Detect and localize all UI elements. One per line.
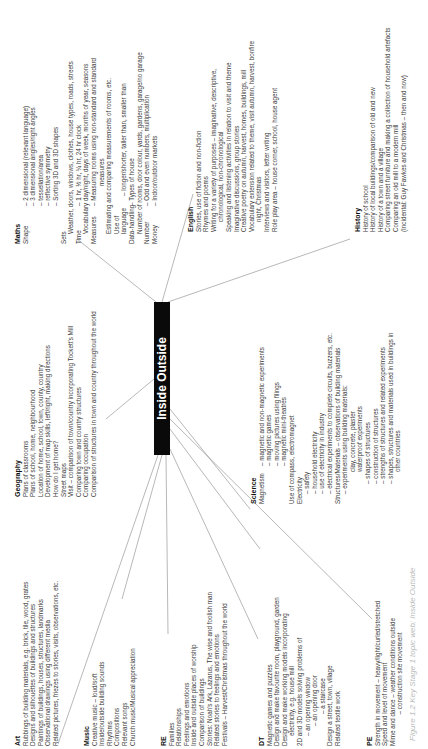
re-item: Families <box>168 592 176 746</box>
maths-block: Maths Shape – 2 dimensional (relevant la… <box>14 52 158 244</box>
geography-item: Location of home, school, town, county, … <box>37 311 45 497</box>
history-item: Comparing an old mill to a modern mill <box>392 28 400 232</box>
maths-language-label: Use of language <box>113 196 128 244</box>
maths-data-item: – Types of house <box>128 158 136 206</box>
geography-block: Geography Plans of classrooms Plans of s… <box>14 311 98 497</box>
history-item: History of local buildings/comparison of… <box>369 28 377 232</box>
dt-item: Magnetic games and puzzles <box>266 597 274 746</box>
english-item: Stories, use of fiction and non-fiction <box>195 41 203 232</box>
geography-item: Street maps <box>60 311 68 497</box>
science-structures-item: – construction of structures <box>372 332 380 504</box>
art-item: Rubbings of building materials, e.g. bri… <box>22 581 30 746</box>
re-block: RE Families Relationships Feelings and e… <box>160 592 228 746</box>
maths-number-text: – Odd and even numbers, multiplication <box>143 95 151 206</box>
english-item: Rhymes and poems <box>202 41 210 232</box>
music-block: Music Creative music – loud/soft Inside/… <box>83 648 136 746</box>
dt-item: Design and make favourite room, playgrou… <box>273 597 281 746</box>
history-item: Comparing street furniture and making a … <box>384 28 392 232</box>
science-magnetism-item: – moving pictures using filings <box>273 347 281 466</box>
english-block: English Stories, use of fiction and non-… <box>187 41 278 232</box>
art-item: Designs and silhouettes of buildings and… <box>29 581 37 746</box>
maths-language-text: – longer/shorter, taller than, smaller t… <box>120 83 128 196</box>
science-electricity-item: – electrical experiments to complete cir… <box>326 332 334 504</box>
science-electricity-item: – use of electricity in industry <box>318 332 326 504</box>
art-block: Art Rubbings of building materials, e.g.… <box>14 581 60 746</box>
re-item: Stories: Noah's Ark, Lazarus, The wise a… <box>206 592 214 746</box>
maths-measures-item: – Measuring rooms using non-standard and… <box>90 58 98 206</box>
science-electricity-item: – safety <box>303 332 311 504</box>
topic-web-page: Inside Outside Maths Shape – 2 dimension… <box>0 0 428 749</box>
english-item: Role play area – house corner, school, h… <box>271 41 279 232</box>
dt-item: electricity, e.g. house mill <box>288 597 296 746</box>
maths-shape-item: – 3 dimensional angles/right angles <box>29 106 37 206</box>
dt-item: – a staircase <box>319 597 327 746</box>
dt-block: DT Magnetic games and puzzles Design and… <box>258 597 342 746</box>
re-item: Inside and outside places of worship <box>190 592 198 746</box>
maths-sets-text: Weather, doors, windows, clothes, house … <box>67 52 75 244</box>
re-title: RE <box>160 592 168 746</box>
dt-item: Related textile work <box>334 597 342 746</box>
geography-item: Comparing occupation <box>82 311 90 497</box>
english-item: Speaking and listening activities in rel… <box>225 41 233 232</box>
english-title: English <box>187 41 195 232</box>
center-topic: Inside Outside <box>154 302 170 455</box>
music-item: Rhythms <box>106 648 114 746</box>
english-item: Imaginative discussions, group stories <box>233 41 241 232</box>
music-item: Creative music – loud/soft <box>91 648 99 746</box>
re-item: Related stories to feelings and emotions <box>213 592 221 746</box>
pe-item: Mime and dance – weather conditions outs… <box>389 601 397 746</box>
history-title: History <box>354 28 362 232</box>
re-item: Comparison of buildings <box>198 592 206 746</box>
dt-item: 2D and 3D models solving problems of <box>296 597 304 746</box>
geography-item: How do I get home? <box>52 311 60 497</box>
geography-item: Comparing town and country structures <box>75 311 83 497</box>
maths-time-label: Time <box>75 206 83 244</box>
dt-item: Design a street, town, village <box>326 597 334 746</box>
geography-item: Comparison of structures in town and cou… <box>90 311 98 497</box>
maths-data-label: Data-handling <box>128 206 136 244</box>
science-electricity-item: – household electricity <box>311 332 319 504</box>
maths-shape-item: – Sorting 3D and 3D shapes <box>52 106 60 206</box>
science-structures-item: clay, concrete, plaster <box>349 332 357 504</box>
science-structures-item: – shapes, structures and materials used … <box>387 332 395 504</box>
music-item: Compositions <box>113 648 121 746</box>
maths-data-item: Number of rooms, door colour, yards, gar… <box>136 52 144 244</box>
maths-time-item: – 1 hr, ½ hr, ¼ hr, 24 hr clock <box>75 125 83 206</box>
english-item: chronological, non-chronological <box>217 41 225 232</box>
dt-item: – an opening door <box>311 597 319 746</box>
pe-item: – construction site movement <box>396 601 404 746</box>
science-compass: Use of compass, electromagnet <box>288 332 296 504</box>
dt-title: DT <box>258 597 266 746</box>
english-item: Writing for a variety of purposes – imag… <box>210 41 218 232</box>
geography-item: Visit – comparison of town/country incor… <box>67 311 75 497</box>
dt-item: – an opening window <box>304 597 312 746</box>
science-magnetism-item: – magnetic and non-magnetic experiments <box>258 347 266 466</box>
english-item: night, Christmas <box>255 41 263 232</box>
science-structures-item: – experiments using building materials: <box>341 332 349 504</box>
art-item: Observational drawings using different m… <box>44 581 52 746</box>
music-item: Relevant songs <box>121 648 129 746</box>
english-item: Vocabulary extension related to theme, v… <box>248 41 256 232</box>
re-item: Feelings and emotions <box>183 592 191 746</box>
art-item: Related pictures, friezes to stories, vi… <box>52 581 60 746</box>
maths-measures-item: Estimating and comparing measurements of… <box>105 52 113 244</box>
science-structures-item: other countries <box>394 332 402 504</box>
maths-measures-item: measures <box>98 58 106 206</box>
science-structures-item: waterproof experiments <box>356 332 364 504</box>
pe-title: PE <box>366 601 374 746</box>
maths-shape-label: Shape <box>22 206 60 244</box>
geography-item: Plans of school, home, neighbourhood <box>29 311 37 497</box>
re-item: Festivals – Harvest/Christmas throughout… <box>221 592 229 746</box>
maths-number-label: Number <box>143 206 151 244</box>
history-item: (Incidental: Guy Fawkes and Christmas – … <box>400 28 408 232</box>
maths-shape-item: – tessellation/area <box>37 106 45 206</box>
science-electricity-label: Electricity <box>296 332 304 504</box>
pe-item: Strength in movement – heavy/light/curle… <box>374 601 382 746</box>
geography-title: Geography <box>14 311 22 497</box>
science-block: Science Magnetism – magnetic and non-mag… <box>250 332 402 504</box>
re-item: Relationships <box>175 592 183 746</box>
science-magnetism-label: Magnetism <box>258 466 288 504</box>
maths-shape-item: – 2 dimensional (relevant language) <box>22 106 30 206</box>
history-block: History History of school History of loc… <box>354 28 407 232</box>
pe-item: Speed and level of movement <box>381 601 389 746</box>
